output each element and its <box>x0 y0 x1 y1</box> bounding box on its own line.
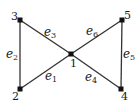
node-label-1: 1 <box>70 57 77 70</box>
graph-diagram: e1e2e3e4e5e612345 <box>0 0 135 108</box>
node-label-3: 3 <box>11 10 18 23</box>
node-3-dot <box>18 18 23 23</box>
node-label-5: 5 <box>124 9 131 22</box>
edge-label-e5: e5 <box>123 47 135 62</box>
edge-e5 <box>121 20 122 89</box>
edge-label-e3: e3 <box>44 25 56 40</box>
edge-label-e2: e2 <box>6 47 18 62</box>
node-label-2: 2 <box>12 90 19 103</box>
node-label-4: 4 <box>121 90 128 103</box>
edge-label-e4: e4 <box>85 70 97 85</box>
edge-label-e1: e1 <box>45 69 57 84</box>
node-1-dot <box>69 52 74 57</box>
edge-label-e6: e6 <box>86 24 98 39</box>
